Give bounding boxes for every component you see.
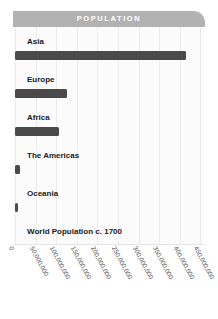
chart-title: POPULATION [13,14,205,24]
bar[interactable] [15,89,67,98]
bar-group: The Americas [13,151,205,183]
x-tick-label: 400,000,000 [173,245,196,280]
x-tick-label: 300,000,000 [131,245,154,280]
x-tick-label: 250,000,000 [111,245,134,280]
x-tick-label: 0 [8,245,16,251]
x-tick-label: 50,000,000 [28,245,49,277]
bar[interactable] [15,203,18,212]
bar-group: Oceania [13,189,205,221]
bar[interactable] [15,51,186,60]
bar-group: Asia [13,37,205,69]
x-axis-tick-labels: 050,000,000100,000,000150,000,000200,000… [0,245,218,319]
x-tick-label: 450,000,000 [193,245,216,280]
category-label: Oceania [27,189,58,199]
bar-group: Europe [13,75,205,107]
category-label: The Americas [27,151,79,161]
x-tick-label: 100,000,000 [49,245,72,280]
x-tick-label: 350,000,000 [152,245,175,280]
plot-area: AsiaEuropeAfricaThe AmericasOceaniaWorld… [13,27,205,245]
category-label: Europe [27,75,55,85]
bar[interactable] [15,165,20,174]
bar-group: World Population c. 1700 [13,227,205,245]
category-label: Asia [27,37,44,47]
bar[interactable] [15,127,59,136]
chart-header-bar: POPULATION [13,11,205,27]
x-tick-label: 200,000,000 [90,245,113,280]
category-label: World Population c. 1700 [27,227,122,237]
x-tick-label: 150,000,000 [70,245,93,280]
bar-group: Africa [13,113,205,145]
population-chart-card: POPULATION AsiaEuropeAfricaThe AmericasO… [13,11,205,245]
category-label: Africa [27,113,50,123]
